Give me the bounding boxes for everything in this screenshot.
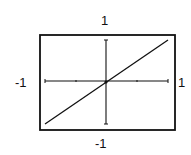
y-min-label: -1 [95,137,107,150]
x-max-label: 1 [178,76,185,89]
x-min-label: -1 [15,76,27,89]
origin-point [104,80,107,83]
y-max-label: 1 [101,14,108,27]
plot-area [0,0,191,155]
